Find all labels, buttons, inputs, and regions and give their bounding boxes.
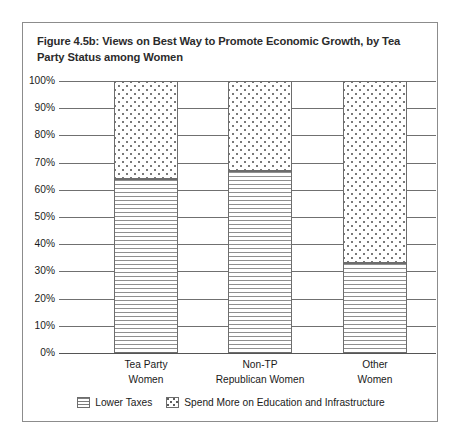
legend-item: Spend More on Education and Infrastructu… [166, 397, 384, 408]
stacked-bar [114, 81, 178, 353]
x-axis-category-label: OtherWomen [305, 357, 445, 387]
y-axis-tick-label: 100% [15, 76, 55, 86]
figure-title: Figure 4.5b: Views on Best Way to Promot… [37, 33, 427, 65]
y-axis-tick-label: 20% [15, 294, 55, 304]
y-axis-tick-label: 10% [15, 321, 55, 331]
figure-container: Figure 4.5b: Views on Best Way to Promot… [22, 22, 438, 422]
category-label-line: Women [305, 372, 445, 387]
chart-legend: Lower TaxesSpend More on Education and I… [23, 397, 439, 408]
y-axis-tick-label: 80% [15, 130, 55, 140]
legend-label: Lower Taxes [95, 397, 152, 408]
bar-segment-spend-more [228, 81, 292, 171]
y-axis-tick-label: 40% [15, 239, 55, 249]
y-axis-tick-label: 50% [15, 212, 55, 222]
bar-segment-spend-more [343, 81, 407, 263]
y-axis-tick-label: 90% [15, 103, 55, 113]
chart-plot-area [59, 81, 436, 353]
bar-segment-lower-taxes [343, 263, 407, 353]
y-axis-tick-label: 0% [15, 348, 55, 358]
bar-segment-spend-more [114, 81, 178, 179]
category-label-line: Other [305, 357, 445, 372]
y-axis-tick-label: 30% [15, 266, 55, 276]
legend-swatch-dots-icon [166, 397, 179, 408]
bar-segment-lower-taxes [228, 171, 292, 353]
x-axis-category-labels: Tea PartyWomenNon-TPRepublican WomenOthe… [59, 357, 436, 391]
stacked-bar [228, 81, 292, 353]
legend-swatch-lines-icon [77, 397, 90, 408]
axis-baseline [59, 353, 436, 354]
legend-label: Spend More on Education and Infrastructu… [184, 397, 384, 408]
stacked-bar [343, 81, 407, 353]
y-axis-tick-labels: 100%90%80%70%60%50%40%30%20%10%0% [23, 81, 55, 353]
y-axis-tick-label: 70% [15, 158, 55, 168]
y-axis-tick-label: 60% [15, 185, 55, 195]
bar-segment-lower-taxes [114, 179, 178, 353]
legend-item: Lower Taxes [77, 397, 152, 408]
